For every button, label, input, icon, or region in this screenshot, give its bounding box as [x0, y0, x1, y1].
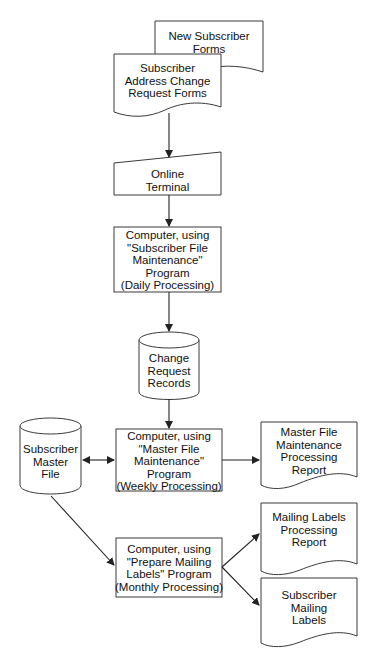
labels-report-label: Mailing Labels Processing Report — [261, 511, 357, 549]
master-file-label: Subscriber Master File — [18, 443, 83, 481]
labels-label: Subscriber Mailing Labels — [261, 589, 357, 627]
new-forms-label: New Subscriber Forms — [155, 30, 263, 55]
terminal-label: Online Terminal — [114, 168, 221, 193]
change-records-label: Change Request Records — [139, 352, 199, 390]
daily-process-label: Computer, using "Subscriber File Mainten… — [114, 229, 221, 292]
weekly-report-label: Master File Maintenance Processing Repor… — [261, 426, 357, 476]
change-forms-label: Subscriber Address Change Request Forms — [114, 62, 221, 100]
monthly-process-label: Computer, using "Prepare Mailing Labels"… — [112, 543, 226, 593]
weekly-process-label: Computer, using "Master File Maintenance… — [114, 430, 224, 493]
